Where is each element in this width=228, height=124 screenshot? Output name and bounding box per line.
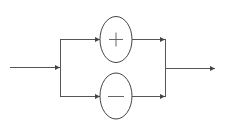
block-diagram (0, 0, 228, 124)
minus-node (100, 73, 132, 119)
plus-node (100, 17, 132, 63)
